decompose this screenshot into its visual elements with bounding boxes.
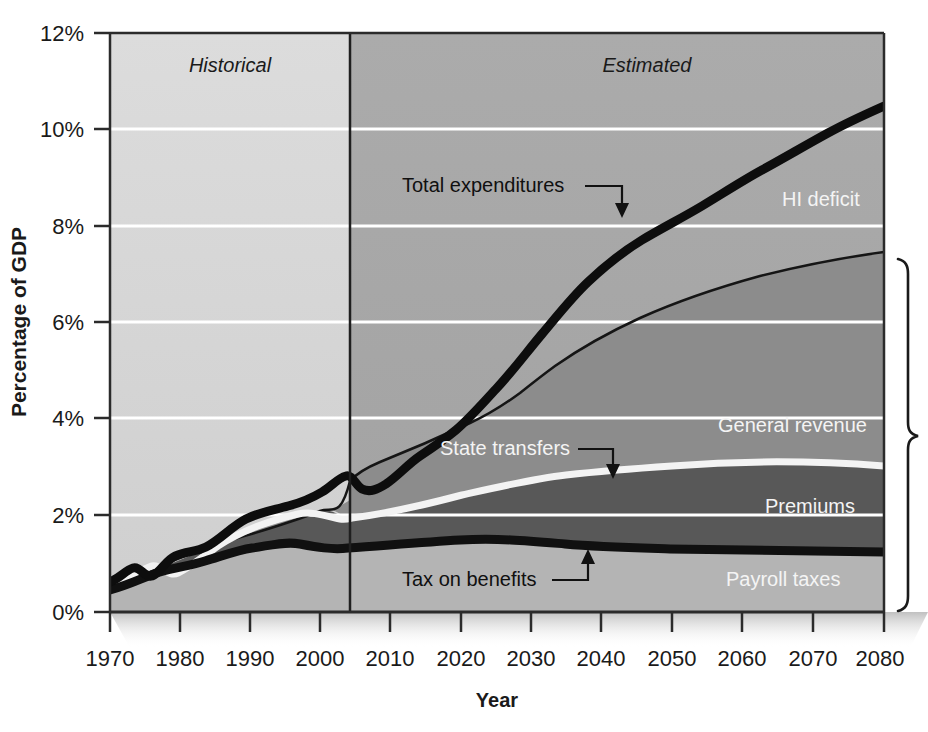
ytick-label-2: 2% [52,503,84,528]
xtick-label-1970: 1970 [86,646,135,671]
ytick-label-10: 10% [40,117,84,142]
period-label-historical: Historical [189,54,272,76]
ytick-label-0: 0% [52,600,84,625]
annotation-total-expenditures-label: Total expenditures [402,174,564,196]
annotation-state-transfers-label: State transfers [440,437,570,459]
ytick-label-12: 12% [40,21,84,46]
annotation-hi-deficit-label: HI deficit [782,188,860,210]
xtick-label-2040: 2040 [577,646,626,671]
ytick-label-6: 6% [52,310,84,335]
xtick-label-2000: 2000 [296,646,345,671]
x-axis-label: Year [476,689,518,711]
annotation-premiums-label: Premiums [765,495,855,517]
x-tick-labels: 1970 1980 1990 2000 2010 2020 2030 2040 … [86,646,905,671]
xtick-label-1980: 1980 [156,646,205,671]
y-ticks [94,33,110,612]
xtick-label-2070: 2070 [789,646,838,671]
chart-canvas: 12% 10% 8% 6% 4% 2% 0% Percentage of GDP [0,0,928,732]
xtick-label-2030: 2030 [507,646,556,671]
xtick-label-2050: 2050 [648,646,697,671]
annotation-general-revenue-label: General revenue [718,414,867,436]
annotation-payroll-taxes-label: Payroll taxes [726,568,841,590]
ytick-label-8: 8% [52,214,84,239]
y-axis-label: Percentage of GDP [7,227,30,417]
plot-drop-shadow [110,612,928,648]
xtick-label-2080: 2080 [856,646,905,671]
xtick-label-1990: 1990 [226,646,275,671]
chart-figure: 12% 10% 8% 6% 4% 2% 0% Percentage of GDP [0,0,928,732]
period-label-estimated: Estimated [603,54,693,76]
hi-income-brace [898,259,918,611]
annotation-tax-on-benefits-label: Tax on benefits [402,568,537,590]
y-tick-labels: 12% 10% 8% 6% 4% 2% 0% [40,21,84,625]
xtick-label-2020: 2020 [437,646,486,671]
xtick-label-2060: 2060 [718,646,767,671]
ytick-label-4: 4% [52,406,84,431]
xtick-label-2010: 2010 [366,646,415,671]
